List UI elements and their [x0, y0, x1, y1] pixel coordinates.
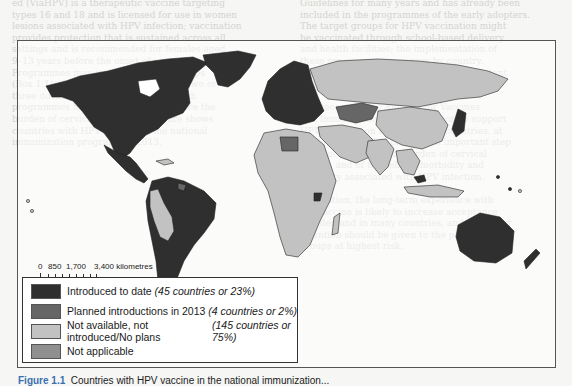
legend-detail: (45 countries or 23%): [155, 285, 255, 297]
legend-item-introduced: Introduced to date (45 countries or 23%): [31, 283, 255, 299]
legend-swatch: [31, 284, 61, 299]
pacific-island: [496, 175, 499, 178]
figure-caption: Figure 1.1 Countries with HPV vaccine in…: [18, 375, 329, 386]
legend-label: Planned introductions in 2013: [67, 305, 205, 317]
japan: [452, 109, 466, 137]
caption-label: Figure 1.1: [18, 375, 65, 386]
australia: [456, 213, 514, 263]
malaysia: [414, 175, 426, 183]
north-america: [46, 57, 208, 159]
legend-swatch: [31, 324, 61, 339]
caribbean: [156, 159, 174, 165]
india: [366, 139, 394, 175]
legend-item-planned: Planned introductions in 2013 (4 countri…: [31, 303, 297, 319]
legend-item-not-applicable: Not applicable: [31, 343, 134, 359]
legend-item-not-introduced: Not available, not introduced/No plans (…: [31, 323, 297, 339]
madagascar: [332, 213, 340, 235]
russia: [310, 59, 508, 107]
indonesia: [404, 185, 464, 197]
new-zealand: [524, 249, 540, 269]
scale-tick-1700: 1,700: [66, 262, 86, 271]
kazakhstan: [336, 103, 378, 123]
legend-label: Introduced to date: [67, 285, 152, 297]
southeast-asia: [396, 149, 420, 175]
pacific-island: [26, 199, 29, 202]
pacific-island: [518, 189, 521, 192]
scale-tick-3400: 3,400 kilometres: [94, 262, 153, 271]
legend-detail: (145 countries or 75%): [212, 319, 297, 343]
legend-swatch: [31, 344, 61, 359]
scale-tick-850: 850: [48, 262, 61, 271]
legend-detail: (4 countries or 2%): [208, 305, 297, 317]
libya: [280, 137, 298, 151]
legend-swatch: [31, 304, 61, 319]
map-legend: Introduced to date (45 countries or 23%)…: [22, 277, 298, 363]
legend-label: Not available, not introduced/No plans: [67, 319, 209, 343]
caption-text: Countries with HPV vaccine in the nation…: [71, 375, 329, 386]
greenland: [203, 51, 256, 87]
legend-label: Not applicable: [67, 345, 134, 357]
scale-tick-0: 0: [38, 262, 42, 271]
pacific-island: [508, 187, 511, 190]
pacific-island: [30, 209, 33, 212]
